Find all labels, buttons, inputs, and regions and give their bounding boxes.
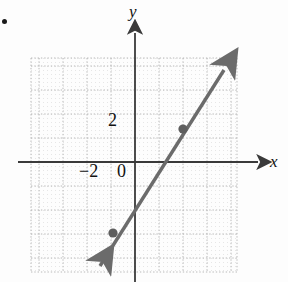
figure-canvas: y x 2 −2 0 — [0, 0, 288, 282]
coordinate-plane-graph — [0, 0, 288, 282]
y-axis-label: y — [129, 2, 137, 22]
x-axis-label: x — [270, 152, 278, 172]
data-point — [178, 124, 187, 133]
x-tick-label-negative-2: −2 — [79, 161, 98, 182]
data-point — [108, 228, 117, 237]
origin-label: 0 — [117, 161, 126, 182]
y-tick-label-2: 2 — [108, 110, 117, 131]
